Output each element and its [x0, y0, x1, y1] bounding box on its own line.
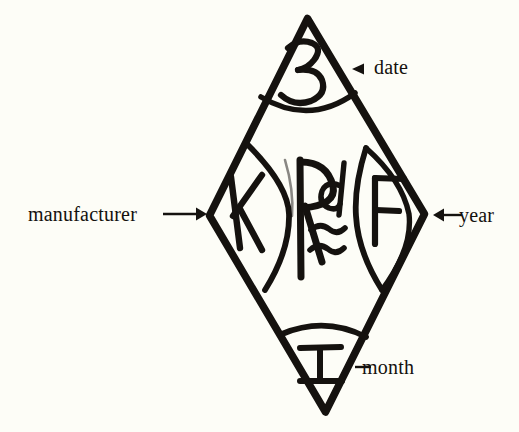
compartment-center [300, 160, 345, 277]
left-lens [248, 145, 289, 290]
mark-Rd [300, 160, 344, 277]
callout-label-year: year [459, 205, 494, 225]
hallmark-figure: manufacturer date year month [0, 0, 519, 432]
connector-date-arrowhead [352, 64, 364, 75]
connector-manufacturer-arrow [163, 208, 207, 221]
callout-label-month: month [362, 357, 414, 377]
bottom-divider-arc [282, 326, 366, 337]
mark-K [231, 175, 262, 250]
callout-label-date: date [374, 57, 408, 77]
connector-year-arrow [433, 209, 462, 222]
callout-label-manufacturer: manufacturer [28, 204, 137, 224]
mark-3 [281, 41, 323, 103]
